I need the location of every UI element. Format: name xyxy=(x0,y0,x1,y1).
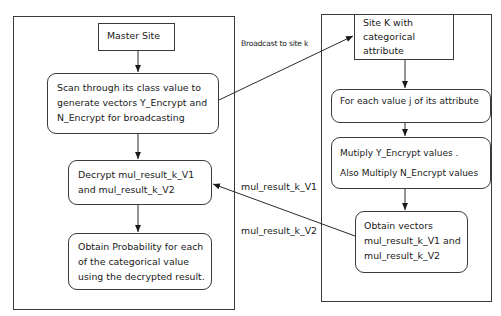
site-k-title-line-1: Site K with xyxy=(363,16,445,30)
decrypt-box: Decrypt mul_result_k_V1 and mul_result_k… xyxy=(68,160,212,205)
multiply-line-1: Mutiply Y_Encrypt values . xyxy=(340,143,482,163)
site-k-title-line-3: attribute xyxy=(363,44,445,58)
for-each-text: For each value j of its attribute xyxy=(340,94,482,109)
broadcast-label: Broadcast to site k xyxy=(241,39,308,48)
obtain-vectors-box: Obtain vectors mul_result_k_V1 and mul_r… xyxy=(355,211,468,273)
scan-class-value-box: Scan through its class value to generate… xyxy=(47,73,219,134)
multiply-box: Mutiply Y_Encrypt values . Also Multiply… xyxy=(331,137,491,189)
multiply-line-2: Also Multiply N_Encrypt values xyxy=(340,163,482,183)
site-k-title-line-2: categorical xyxy=(363,30,445,44)
for-each-value-box: For each value j of its attribute xyxy=(331,89,491,123)
v1-label: mul_result_k_V1 xyxy=(241,181,317,192)
probability-line-1: Obtain Probability for each xyxy=(78,239,202,254)
scan-line-2: generate vectors Y_Encrypt and xyxy=(57,95,209,110)
decrypt-line-1: Decrypt mul_result_k_V1 xyxy=(78,167,202,182)
obtain-vectors-line-1: Obtain vectors xyxy=(364,218,459,233)
v2-label: mul_result_k_V2 xyxy=(241,225,317,236)
probability-line-2: of the categorical value xyxy=(78,254,202,269)
master-site-box: Master Site xyxy=(98,23,175,51)
scan-line-1: Scan through its class value to xyxy=(57,80,209,95)
site-k-box: Site K with categorical attribute xyxy=(354,14,454,60)
decrypt-line-2: and mul_result_k_V2 xyxy=(78,182,202,197)
probability-line-3: using the decrypted result. xyxy=(78,269,202,284)
master-site-title: Master Site xyxy=(107,28,166,43)
obtain-vectors-line-3: mul_result_k_V2 xyxy=(364,248,459,263)
obtain-probability-box: Obtain Probability for each of the categ… xyxy=(68,233,212,290)
obtain-vectors-line-2: mul_result_k_V1 and xyxy=(364,233,459,248)
scan-line-3: N_Encrypt for broadcasting xyxy=(57,110,209,125)
